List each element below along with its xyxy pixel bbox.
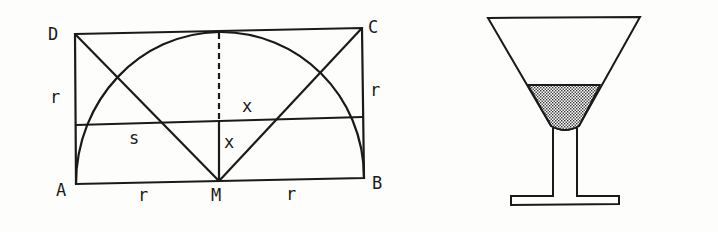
label-vertex-c: C (368, 17, 378, 37)
label-side-right-r: r (370, 80, 380, 100)
label-vertex-b: B (372, 173, 382, 193)
geometry-figure (75, 28, 364, 184)
glass-stem (511, 128, 619, 205)
label-base-right-r: r (286, 184, 296, 204)
cocktail-glass (488, 17, 640, 205)
label-vertex-m: M (211, 185, 221, 205)
label-upper-x: x (242, 96, 252, 116)
label-vertex-a: A (56, 180, 66, 200)
label-vertex-d: D (48, 24, 58, 44)
label-side-left-r: r (50, 87, 60, 107)
figure-canvas: D C A B M r r r r s x x (0, 0, 718, 232)
label-base-left-r: r (138, 185, 148, 205)
label-lower-x: x (224, 132, 234, 152)
label-segment-s: s (129, 128, 139, 148)
